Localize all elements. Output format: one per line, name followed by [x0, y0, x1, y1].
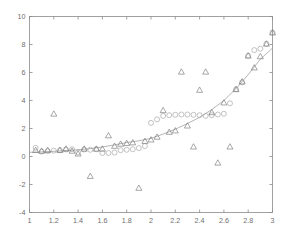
scatter-plot: 11.21.41.61.822.22.42.62.83 1086420-2-4	[0, 0, 289, 240]
data-point-circle	[155, 117, 160, 122]
y-tick-label: -2	[19, 180, 25, 189]
data-point-triangle	[215, 160, 221, 165]
data-point-circle	[185, 112, 190, 117]
data-point-triangle	[87, 173, 93, 178]
data-point-circle	[173, 112, 178, 117]
x-tick-label: 1.4	[73, 216, 83, 225]
data-point-circle	[142, 144, 147, 149]
data-point-circle	[227, 101, 232, 106]
data-point-circle	[88, 147, 93, 152]
x-tick-label: 1.2	[49, 216, 59, 225]
data-point-circle	[179, 112, 184, 117]
y-tick-label: -4	[19, 208, 25, 217]
x-tick-label: 2	[149, 216, 153, 225]
figure-canvas: 11.21.41.61.822.22.42.62.83 1086420-2-4	[0, 0, 289, 240]
noisy-observations-series	[33, 30, 276, 191]
y-tick-label: 6	[22, 68, 26, 77]
data-point-circle	[130, 147, 135, 152]
data-point-triangle	[191, 144, 197, 149]
y-tick-label: 2	[22, 124, 26, 133]
x-tick-label: 2.6	[219, 216, 229, 225]
data-point-triangle	[178, 69, 184, 74]
data-point-triangle	[51, 111, 57, 116]
data-point-circle	[167, 113, 172, 118]
data-point-triangle	[203, 69, 209, 74]
data-point-triangle	[227, 144, 233, 149]
data-point-circle	[136, 146, 141, 151]
data-point-triangle	[197, 87, 203, 92]
y-tick-label: 0	[22, 152, 26, 161]
plot-frame	[30, 17, 273, 213]
data-point-circle	[33, 145, 38, 150]
axes-frame	[30, 17, 273, 213]
y-tick-label: 4	[22, 96, 26, 105]
x-tick-label: 1	[28, 216, 32, 225]
x-tick-label: 2.8	[243, 216, 253, 225]
smoothed-estimate-series	[33, 30, 275, 155]
x-tick-label: 1.8	[122, 216, 132, 225]
data-point-circle	[124, 147, 129, 152]
x-tick-label: 1.6	[97, 216, 107, 225]
data-point-circle	[203, 113, 208, 118]
x-tick-label: 3	[271, 216, 275, 225]
y-tick-label: 10	[18, 12, 26, 21]
data-point-triangle	[136, 185, 142, 190]
x-tick-label: 2.4	[195, 216, 205, 225]
data-point-triangle	[154, 134, 160, 139]
data-point-triangle	[257, 53, 263, 58]
data-point-circle	[252, 48, 257, 53]
data-point-circle	[106, 151, 111, 156]
data-point-circle	[258, 46, 263, 51]
data-point-circle	[149, 120, 154, 125]
data-point-circle	[161, 113, 166, 118]
data-point-circle	[45, 149, 50, 154]
data-point-circle	[209, 113, 214, 118]
data-point-triangle	[105, 133, 111, 138]
data-point-circle	[215, 112, 220, 117]
data-point-circle	[118, 148, 123, 153]
data-point-circle	[221, 111, 226, 116]
data-point-triangle	[160, 107, 166, 112]
data-point-circle	[112, 150, 117, 155]
y-tick-label: 8	[22, 40, 26, 49]
x-tick-label: 2.2	[170, 216, 180, 225]
data-point-circle	[51, 148, 56, 153]
data-point-circle	[191, 112, 196, 117]
data-point-triangle	[112, 143, 118, 148]
